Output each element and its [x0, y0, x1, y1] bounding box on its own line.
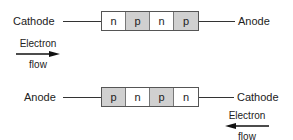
- top-layer-p: p: [174, 12, 198, 30]
- top-left-terminal-label: Cathode: [13, 15, 55, 27]
- bottom-layer-p: p: [150, 88, 174, 106]
- top-right-terminal-label: Anode: [238, 15, 270, 27]
- bottom-left-wire: [63, 97, 101, 98]
- arrow-right-icon: [15, 50, 61, 58]
- electron-flow-label-line2: flow: [29, 59, 47, 70]
- bottom-right-wire: [199, 97, 234, 98]
- top-electron-flow: Electron flow: [15, 38, 61, 70]
- bottom-layer-n: n: [126, 88, 150, 106]
- top-layer-n: n: [150, 12, 174, 30]
- bottom-left-terminal-label: Anode: [24, 91, 56, 103]
- bottom-layer-p: p: [102, 88, 126, 106]
- electron-flow-label-line1: Electron: [20, 38, 57, 49]
- arrow-left-icon: [224, 122, 270, 130]
- top-right-wire: [199, 21, 235, 22]
- bottom-layer-stack: p n p n: [101, 87, 199, 107]
- top-left-wire: [63, 21, 101, 22]
- bottom-right-terminal-label: Cathode: [237, 91, 279, 103]
- bottom-electron-flow: Electron flow: [224, 110, 270, 140]
- electron-flow-label-line1: Electron: [229, 110, 266, 121]
- bottom-layer-n: n: [174, 88, 198, 106]
- top-layer-stack: n p n p: [101, 11, 199, 31]
- electron-flow-label-line2: flow: [238, 131, 256, 140]
- top-layer-p: p: [126, 12, 150, 30]
- top-layer-n: n: [102, 12, 126, 30]
